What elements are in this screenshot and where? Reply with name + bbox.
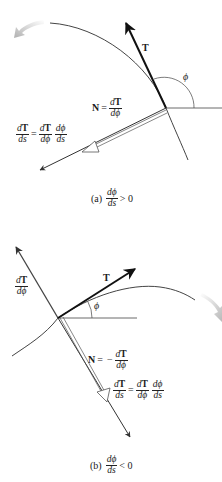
normal-symbol: N: [88, 355, 95, 365]
dT-dphi-fraction: dT dϕ: [109, 98, 122, 119]
normal-symbol: N: [92, 103, 99, 113]
chain-rule-equation-b: dT ds = dT dϕ dϕ ds: [113, 380, 164, 401]
dphi-ds-fraction: dϕ ds: [106, 188, 118, 209]
figure-a: [14, 20, 222, 170]
caption-b: (b) dϕ ds < 0: [90, 455, 132, 476]
angle-arc-b: [88, 302, 92, 318]
dphi-ds-fraction: dϕ ds: [55, 124, 67, 145]
angle-label-b: ϕ: [94, 301, 99, 311]
normal-equation-a: N = dT dϕ: [92, 98, 122, 119]
caption-a: (a) dϕ ds > 0: [91, 188, 133, 209]
dphi-ds-fraction: dϕ ds: [106, 455, 118, 476]
curve-b: [12, 286, 195, 356]
angle-label-a: ϕ: [183, 72, 188, 82]
motion-direction-arrow-a: [14, 20, 44, 38]
dT-ds-fraction: dT ds: [113, 380, 126, 401]
tangent-label-b: T: [103, 273, 110, 283]
chain-rule-equation-a: dT ds = dT dϕ dϕ ds: [16, 124, 67, 145]
diagram-canvas: [0, 0, 222, 482]
tangent-label-a: T: [142, 43, 149, 53]
normal-equation-b: N = − dT dϕ: [88, 350, 128, 371]
motion-direction-arrow-b: [200, 293, 222, 322]
dTdphi-label-b: dT dϕ: [15, 276, 28, 297]
dTds-vector-b: [58, 318, 130, 437]
curve-a: [50, 23, 188, 160]
dT-dphi-fraction: dT dϕ: [136, 380, 149, 401]
figure-b: [12, 247, 222, 437]
dphi-ds-fraction: dϕ ds: [152, 380, 164, 401]
dT-ds-fraction: dT ds: [16, 124, 29, 145]
tangent-vector-a: [126, 23, 166, 108]
dT-dphi-fraction: dT dϕ: [115, 350, 128, 371]
dT-dphi-fraction: dT dϕ: [39, 124, 52, 145]
